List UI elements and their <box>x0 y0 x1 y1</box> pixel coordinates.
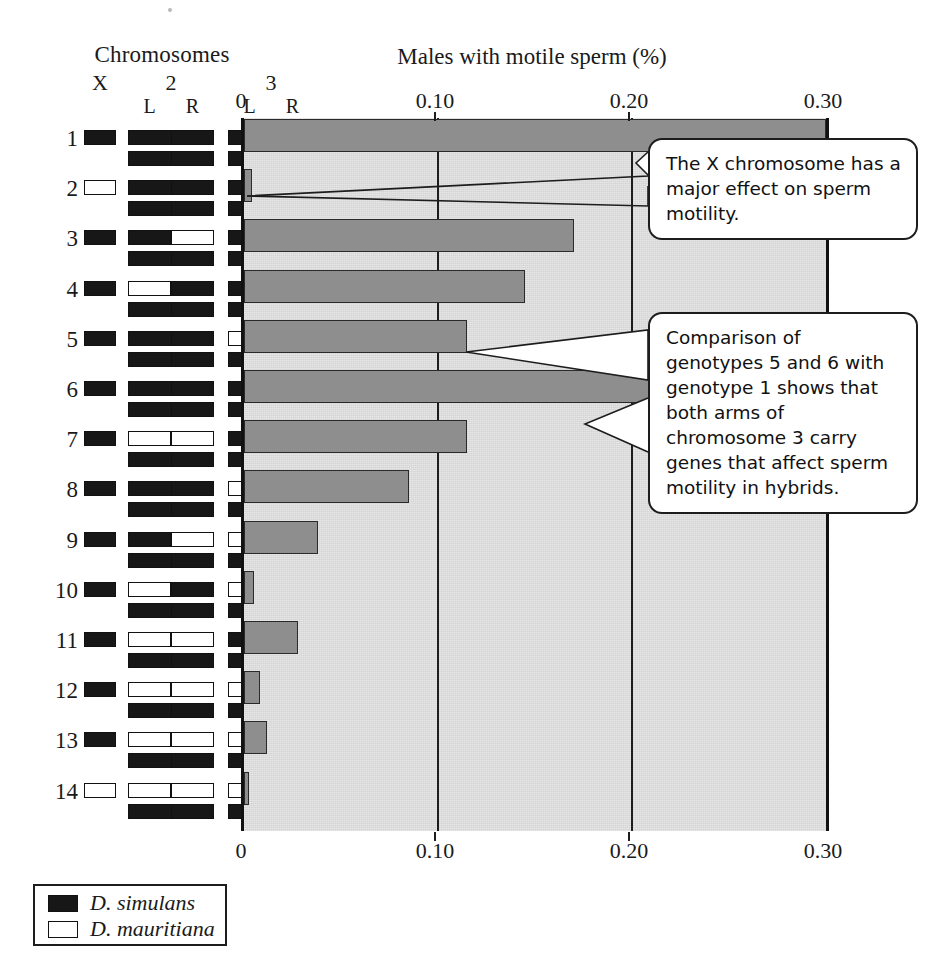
callout-x-chromosome: The X chromosome has a major effect on s… <box>648 138 918 240</box>
callout-chromosome-3-arms: Comparison of genotypes 5 and 6 with gen… <box>648 312 918 514</box>
